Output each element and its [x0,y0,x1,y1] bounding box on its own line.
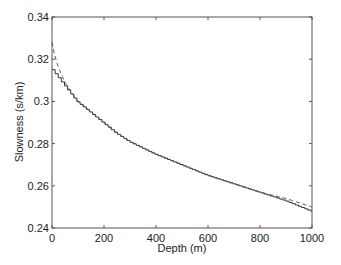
y-tick-label: 0.26 [28,180,49,192]
y-axis-ticks: 0.240.260.280.30.320.34 [28,11,312,234]
y-tick-label: 0.28 [28,138,49,150]
plot-area [52,42,312,211]
series-layered-staircase [52,70,312,211]
y-tick-label: 0.24 [28,222,49,234]
y-axis-label: Slowness (s/km) [13,82,25,163]
series-continuous-dashed [52,42,312,207]
x-axis-label: Depth (m) [158,242,207,254]
x-tick-label: 800 [251,232,269,244]
x-tick-label: 1000 [300,232,324,244]
x-tick-label: 200 [95,232,113,244]
slowness-depth-chart: 0.240.260.280.30.320.34 0200400600800100… [0,0,341,265]
y-tick-label: 0.34 [28,11,49,23]
x-axis-ticks: 02004006008001000 [49,17,324,244]
y-tick-label: 0.32 [28,53,49,65]
y-tick-label: 0.3 [34,95,49,107]
x-tick-label: 0 [49,232,55,244]
